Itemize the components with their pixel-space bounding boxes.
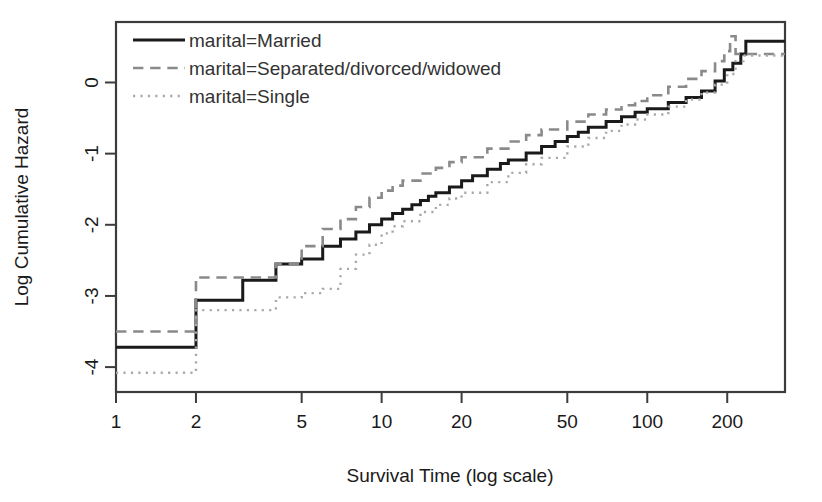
x-tick-label: 2	[191, 411, 202, 432]
y-tick-label: -3	[82, 287, 103, 304]
y-tick-label: -1	[82, 145, 103, 162]
x-tick-label: 50	[557, 411, 578, 432]
y-tick-label: 0	[82, 77, 103, 88]
y-tick-label: -4	[82, 358, 103, 375]
y-axis-title: Log Cumulative Hazard	[11, 108, 32, 307]
legend-label-2: marital=Single	[189, 86, 310, 107]
x-tick-label: 10	[371, 411, 392, 432]
survival-plot: 125102050100200 0-1-2-3-4 marital=Marrie…	[0, 0, 822, 502]
legend-label-1: marital=Separated/divorced/widowed	[189, 58, 501, 79]
y-tick-label: -2	[82, 216, 103, 233]
x-tick-label: 5	[296, 411, 307, 432]
x-tick-label: 100	[631, 411, 663, 432]
x-tick-label: 200	[711, 411, 743, 432]
x-tick-label: 20	[451, 411, 472, 432]
chart-root: 125102050100200 0-1-2-3-4 marital=Marrie…	[0, 0, 822, 502]
x-tick-label: 1	[111, 411, 122, 432]
legend-label-0: marital=Married	[189, 30, 322, 51]
x-axis-title: Survival Time (log scale)	[347, 465, 554, 486]
